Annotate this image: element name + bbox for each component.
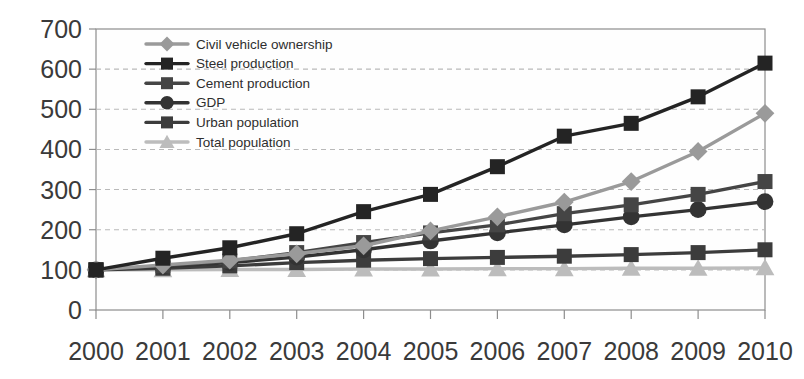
data-point [155,251,170,266]
data-point [624,247,639,262]
data-point [758,56,773,71]
legend-label: Total population [196,135,291,150]
data-point [758,242,773,257]
x-tick-label: 2001 [135,337,191,365]
x-tick-label: 2008 [603,337,659,365]
legend-label: Cement production [196,76,310,91]
y-tick-label: 200 [40,216,82,244]
data-point [758,174,773,189]
data-point [691,245,706,260]
chart-canvas: 0100200300400500600700 20002001200220032… [0,0,804,379]
x-tick-label: 2009 [670,337,726,365]
legend-marker [161,116,173,128]
x-tick-label: 2007 [536,337,592,365]
data-point [691,89,706,104]
y-tick-label: 700 [40,15,82,43]
legend-label: GDP [196,95,225,110]
data-point [222,240,237,255]
y-tick-label: 300 [40,176,82,204]
legend-label: Steel production [196,56,294,71]
x-tick-label: 2000 [68,337,124,365]
legend-item-cement-production[interactable]: Cement production [146,76,310,91]
data-point [89,262,104,277]
legend-label: Civil vehicle ownership [196,37,333,52]
legend-item-steel-production[interactable]: Steel production [146,56,294,71]
data-point [557,129,572,144]
data-point [690,201,707,218]
data-point [423,187,438,202]
line-chart: 0100200300400500600700 20002001200220032… [0,0,804,379]
data-point [624,116,639,131]
data-point [356,204,371,219]
x-tick-label: 2002 [202,337,258,365]
data-point [423,251,438,266]
legend-item-total-population[interactable]: Total population [146,135,291,150]
data-point [490,250,505,265]
x-tick-label: 2005 [403,337,459,365]
y-tick-label: 400 [40,135,82,163]
x-tick-label: 2003 [269,337,325,365]
x-tick-label: 2010 [737,337,793,365]
legend-marker [161,77,173,89]
data-point [757,193,774,210]
y-tick-label: 100 [40,256,82,284]
data-point [490,159,505,174]
data-point [289,226,304,241]
y-tick-label: 500 [40,95,82,123]
data-point [691,187,706,202]
legend-marker [161,58,173,70]
x-tick-label: 2006 [470,337,526,365]
data-point [624,197,639,212]
x-tick-label: 2004 [336,337,392,365]
legend-item-urban-population[interactable]: Urban population [146,115,299,130]
legend-label: Urban population [196,115,299,130]
y-tick-label: 0 [68,296,82,324]
data-point [557,249,572,264]
legend-marker [160,96,173,109]
y-tick-label: 600 [40,55,82,83]
